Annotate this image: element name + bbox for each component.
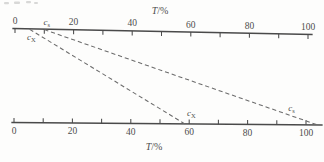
bottom-point-label-cs: cs [288,103,295,114]
cX-projection [30,29,185,124]
top-axis-tick-label: 40 [127,18,137,28]
top-point-label-cX: cX [27,32,36,43]
bottom-axis-tick-label: 40 [126,127,136,137]
top-axis-tick-label: 20 [69,17,79,27]
cs-projection [44,30,317,125]
bottom-axis-tick-label: 0 [12,126,17,136]
projection-lines [30,29,318,125]
top-axis-tick-label: 80 [245,21,255,31]
top-point-label-cs: cs [43,17,50,28]
bottom-axis-line [12,123,322,126]
top-axis-tick-label: 0 [13,16,18,26]
top-axis: 020406080100T/%cscX [13,5,316,43]
scanned-figure-page: 020406080100T/%cscX020406080100T/%cXcs [0,0,324,162]
bottom-axis-title: T/% [146,141,163,152]
top-axis-title: T/% [152,5,169,16]
scan-artifact [4,1,38,4]
bottom-axis-tick-label: 20 [68,126,78,136]
top-axis-tick-label: 60 [186,20,196,30]
bottom-axis-tick-label: 80 [243,128,253,138]
bottom-axis-tick-label: 60 [184,127,194,137]
transmittance-scale-nomogram: 020406080100T/%cscX020406080100T/%cXcs [0,0,324,162]
bottom-point-label-cX: cX [187,108,196,119]
top-axis-tick-label: 100 [301,22,316,32]
bottom-axis-tick-label: 100 [299,128,314,138]
top-axis-line [13,29,312,35]
